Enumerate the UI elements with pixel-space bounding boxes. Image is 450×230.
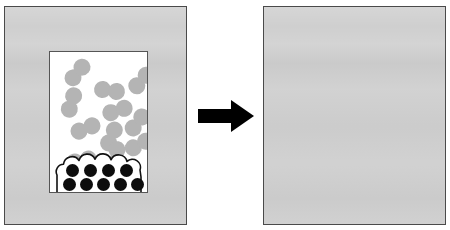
diatomic-molecule [61,55,94,90]
products-panel [263,6,446,225]
diatomic-molecule [59,85,85,120]
right-arrow-icon [198,100,254,132]
diatomic-molecule [125,63,148,97]
condensed-atom [63,178,76,191]
diatomic-molecule [93,80,126,101]
condensed-atom [102,164,115,177]
condensed-atom [114,178,127,191]
condensed-atom [84,164,97,177]
reactants-vessel [49,51,148,193]
molecule-atom [107,82,126,101]
condensed-atom [97,178,110,191]
reaction-figure [0,0,450,230]
condensed-atom [80,178,93,191]
condensed-atom [66,164,79,177]
condensed-atom [131,178,144,191]
condensed-phase-deposit [54,148,145,193]
reactants-panel [4,6,187,225]
condensed-atom [120,164,133,177]
